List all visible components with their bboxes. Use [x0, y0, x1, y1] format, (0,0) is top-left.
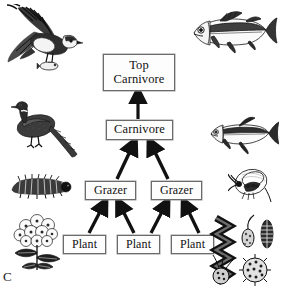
node-grazer-right[interactable]: Grazer	[151, 181, 202, 200]
arrow-plant3-to-grazer-right	[186, 206, 199, 233]
zooplankton-icon	[228, 166, 272, 206]
arrow-grazer-right-to-carnivore	[152, 146, 168, 179]
food-web-diagram: Top Carnivore Carnivore Grazer Grazer Pl…	[0, 0, 281, 289]
large-predatory-fish-icon	[182, 8, 278, 58]
arrow-grazer-left-to-carnivore	[117, 146, 133, 179]
arrow-plant2-to-grazer-left	[121, 206, 135, 233]
osprey-in-flight-icon	[4, 4, 84, 76]
pheasant-icon	[6, 96, 82, 162]
forage-fish-icon	[203, 112, 279, 156]
node-plant-2[interactable]: Plant	[117, 235, 160, 254]
arrow-plant1-to-grazer-left	[89, 206, 103, 233]
node-carnivore[interactable]: Carnivore	[106, 120, 173, 140]
panel-letter: C	[3, 269, 12, 285]
node-top-carnivore[interactable]: Top Carnivore	[103, 54, 175, 91]
phytoplankton-algae-icon	[206, 212, 278, 288]
arrow-plant2-to-grazer-right	[151, 206, 165, 233]
node-grazer-left[interactable]: Grazer	[85, 181, 136, 200]
flowering-plant-icon	[6, 212, 70, 274]
caterpillar-icon	[6, 174, 72, 200]
